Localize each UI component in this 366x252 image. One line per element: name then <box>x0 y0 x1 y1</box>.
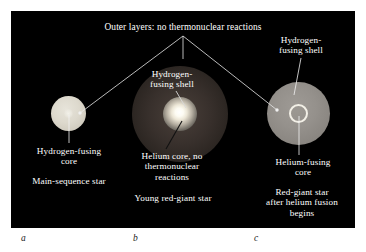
label-helium-fusing-core-c: Helium-fusing core <box>253 157 353 178</box>
label-hydrogen-fusing-core-a: Hydrogen-fusing core <box>17 146 121 167</box>
caption-young-red-giant-star: Young red-giant star <box>117 193 229 203</box>
stellar-structure-figure: Outer layers: no thermonuclear reactions <box>0 0 366 252</box>
young-red-giant-core-glow <box>163 97 197 131</box>
caption-red-giant-star-helium-fusion: Red-giant star after helium fusion begin… <box>243 187 355 218</box>
label-hydrogen-fusing-shell-b: Hydrogen- fusing shell <box>119 69 225 90</box>
diagram-panel: Outer layers: no thermonuclear reactions <box>11 11 355 228</box>
red-giant-helium-disk <box>267 82 330 145</box>
panel-letter-b: b <box>133 233 138 243</box>
outer-layers-caption: Outer layers: no thermonuclear reactions <box>11 22 355 33</box>
caption-main-sequence-star: Main-sequence star <box>13 176 125 186</box>
label-helium-core-b: Helium core, no thermonuclear reactions <box>113 151 231 182</box>
panel-letter-c: c <box>254 233 258 243</box>
panel-letter-a: a <box>21 233 26 243</box>
helium-fusing-core-ring <box>289 104 308 123</box>
main-sequence-core <box>64 109 73 118</box>
main-sequence-star-disk <box>51 96 86 131</box>
label-hydrogen-fusing-shell-c: Hydrogen- fusing shell <box>251 35 351 56</box>
